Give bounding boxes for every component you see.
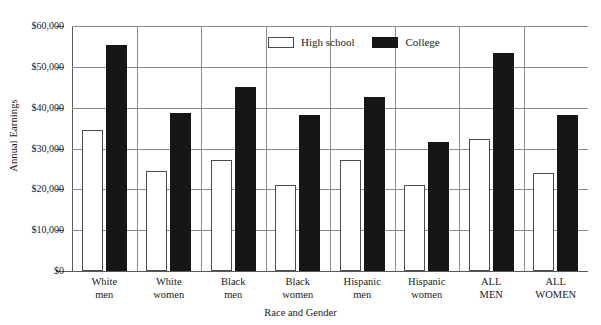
bar-high-school — [211, 160, 232, 271]
x-axis-tick-label-line1: ALL — [481, 276, 501, 287]
group-separator — [201, 26, 202, 271]
legend-item-high-school: High school — [268, 36, 354, 48]
x-axis-tick-label-line2: men — [72, 288, 137, 301]
bar-high-school — [340, 160, 361, 271]
x-axis-tick-label: Blackwomen — [266, 275, 331, 301]
group-separator — [137, 26, 138, 271]
x-axis-title: Race and Gender — [0, 307, 601, 318]
chart-legend: High schoolCollege — [268, 36, 440, 48]
bar-college — [557, 115, 578, 271]
y-axis-tick-label: $30,000 — [18, 144, 64, 154]
bar-high-school — [404, 185, 425, 271]
bar-college — [364, 97, 385, 271]
x-axis-tick-label: Blackmen — [201, 275, 266, 301]
y-axis-tick-label: $50,000 — [18, 62, 64, 72]
x-axis-tick-label-line2: men — [330, 288, 395, 301]
group-separator — [330, 26, 331, 271]
y-axis-tick-label: $60,000 — [18, 21, 64, 31]
x-axis-tick-label-line2: men — [201, 288, 266, 301]
legend-item-label: College — [405, 36, 439, 48]
x-axis-tick-label: Whitemen — [72, 275, 137, 301]
x-axis-tick-labels: WhitemenWhitewomenBlackmenBlackwomenHisp… — [72, 275, 588, 307]
x-axis-tick-label-line1: White — [91, 276, 117, 287]
bar-college — [235, 87, 256, 271]
group-separator — [459, 26, 460, 271]
x-axis-tick-label: Whitewomen — [137, 275, 202, 301]
white-outline-swatch — [268, 37, 294, 48]
x-axis-tick-label-line2: MEN — [459, 288, 524, 301]
x-axis-tick-label: Hispanicwomen — [395, 275, 460, 301]
black-filled-swatch — [372, 37, 398, 48]
x-axis-tick-label-line2: women — [266, 288, 331, 301]
x-axis-tick-label: ALLMEN — [459, 275, 524, 301]
bar-chart: Annual Earnings $0$10,000$20,000$30,000$… — [0, 0, 601, 325]
group-separator — [266, 26, 267, 271]
x-axis-tick-label-line2: WOMEN — [524, 288, 589, 301]
x-axis-tick-label: Hispanicmen — [330, 275, 395, 301]
x-axis-tick-label-line2: women — [137, 288, 202, 301]
bar-high-school — [146, 171, 167, 271]
x-axis-title-label: Race and Gender — [264, 307, 336, 318]
bar-high-school — [82, 130, 103, 271]
x-axis-tick-label-line2: women — [395, 288, 460, 301]
y-axis-tick-label: $0 — [18, 266, 64, 276]
plot-area — [72, 26, 588, 271]
bar-college — [493, 53, 514, 271]
bar-high-school — [275, 185, 296, 271]
legend-item-label: High school — [301, 36, 354, 48]
x-axis-line — [64, 271, 588, 272]
bar-high-school — [469, 139, 490, 271]
y-axis-tick-label: $40,000 — [18, 103, 64, 113]
bar-college — [170, 113, 191, 271]
x-axis-tick-label-line1: Black — [221, 276, 246, 287]
group-separator — [524, 26, 525, 271]
x-axis-tick-label: ALLWOMEN — [524, 275, 589, 301]
legend-item-college: College — [372, 36, 439, 48]
y-axis-tick-label: $20,000 — [18, 184, 64, 194]
x-axis-tick-label-line1: Hispanic — [408, 276, 445, 287]
bar-college — [106, 45, 127, 271]
x-axis-tick-label-line1: White — [156, 276, 182, 287]
group-separator — [395, 26, 396, 271]
bar-high-school — [533, 173, 554, 271]
x-axis-tick-label-line1: Hispanic — [344, 276, 381, 287]
bar-college — [428, 142, 449, 271]
y-axis-tick-label: $10,000 — [18, 225, 64, 235]
x-axis-tick-label-line1: ALL — [546, 276, 566, 287]
y-axis-tick-labels: $0$10,000$20,000$30,000$40,000$50,000$60… — [8, 26, 64, 272]
bar-college — [299, 115, 320, 271]
x-axis-tick-label-line1: Black — [286, 276, 311, 287]
